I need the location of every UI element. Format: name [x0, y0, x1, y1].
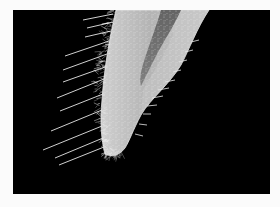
fuzz-stroke — [104, 24, 109, 29]
fuzz-stroke — [107, 39, 109, 40]
tooth-root-render — [13, 10, 270, 194]
figure — [0, 0, 280, 207]
render-panel — [13, 10, 270, 194]
vector-line — [59, 147, 104, 165]
fuzz-stroke — [95, 121, 101, 123]
vector-line — [65, 41, 109, 56]
vector-line — [43, 126, 102, 150]
fuzz-stroke — [95, 106, 97, 108]
vector-line — [135, 134, 143, 136]
fuzz-stroke — [95, 51, 101, 52]
fuzz-stroke — [105, 50, 107, 52]
fuzz-stroke — [98, 103, 100, 104]
vector-line — [55, 138, 103, 158]
fuzz-stroke — [94, 103, 100, 106]
vector-line — [83, 14, 113, 20]
fuzz-stroke — [96, 98, 101, 99]
fuzz-stroke — [105, 23, 111, 24]
fuzz-stroke — [100, 78, 102, 79]
fuzz-stroke — [94, 118, 100, 120]
vector-line — [63, 54, 107, 70]
fuzz-stroke — [109, 24, 111, 25]
fuzz-stroke — [94, 85, 97, 86]
fuzz-stroke — [100, 72, 104, 74]
vector-line — [85, 31, 111, 37]
root-surface-texture — [101, 10, 209, 156]
vector-line — [139, 124, 147, 125]
fuzz-stroke — [94, 99, 98, 101]
vector-line — [63, 67, 105, 82]
vector-line — [60, 94, 103, 111]
